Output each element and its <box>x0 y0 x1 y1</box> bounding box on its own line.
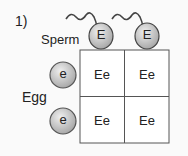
egg-allele-2: e <box>57 112 69 127</box>
punnett-cell: Ee <box>80 97 124 143</box>
sperm-allele-2: E <box>141 27 153 42</box>
egg-allele-1: e <box>57 66 69 81</box>
sperm-allele-1: E <box>95 27 107 42</box>
punnett-cell: Ee <box>80 51 124 97</box>
punnett-cell: Ee <box>125 51 169 97</box>
punnett-cell: Ee <box>125 97 169 143</box>
sperm-tail-1 <box>66 13 97 27</box>
sperm-tail-2 <box>112 13 143 27</box>
